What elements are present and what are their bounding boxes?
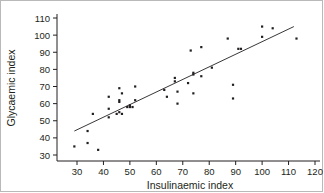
data-point <box>200 75 202 77</box>
data-point <box>86 142 88 144</box>
y-axis-tick-labels: 30405060708090100110 <box>34 13 50 161</box>
data-point <box>200 46 202 48</box>
x-tick-label: 60 <box>151 166 162 177</box>
x-tick-label: 70 <box>177 166 188 177</box>
x-axis-tick-labels: 30405060708090100110120 <box>72 166 323 177</box>
y-tick-label: 90 <box>39 47 50 58</box>
data-point <box>121 113 123 115</box>
x-tick-label: 120 <box>307 166 323 177</box>
data-point <box>232 97 234 99</box>
data-point <box>134 99 136 101</box>
regression-line <box>74 27 293 131</box>
data-point <box>166 96 168 98</box>
y-tick-label: 60 <box>39 98 50 109</box>
data-point <box>86 130 88 132</box>
data-points <box>73 25 297 150</box>
data-point <box>73 145 75 147</box>
x-tick-label: 100 <box>254 166 270 177</box>
data-point <box>174 77 176 79</box>
x-tick-label: 80 <box>204 166 215 177</box>
y-tick-label: 50 <box>39 115 50 126</box>
data-point <box>131 106 133 108</box>
axis-lines <box>57 14 320 161</box>
data-point <box>176 103 178 105</box>
data-point <box>108 108 110 110</box>
data-point <box>192 92 194 94</box>
scatter-plot: 30405060708090100110120 3040506070809010… <box>1 1 324 193</box>
data-point <box>121 92 123 94</box>
data-point <box>163 89 165 91</box>
data-point <box>187 82 189 84</box>
data-point <box>272 27 274 29</box>
data-point <box>129 104 131 106</box>
y-tick-label: 30 <box>39 150 50 161</box>
data-point <box>240 48 242 50</box>
x-axis-label: Insulinaemic index <box>147 179 234 191</box>
y-axis-label: Glycaemic index <box>5 49 17 127</box>
data-point <box>97 149 99 151</box>
x-tick-label: 90 <box>230 166 241 177</box>
data-point <box>126 106 128 108</box>
y-axis-ticks <box>53 18 57 155</box>
y-tick-label: 70 <box>39 81 50 92</box>
data-point <box>118 101 120 103</box>
data-point <box>261 36 263 38</box>
data-point <box>134 85 136 87</box>
x-axis-ticks <box>77 161 315 165</box>
x-tick-label: 40 <box>98 166 109 177</box>
data-point <box>232 84 234 86</box>
data-point <box>192 73 194 75</box>
data-point <box>92 113 94 115</box>
data-point <box>176 91 178 93</box>
data-point <box>237 48 239 50</box>
axes: 30405060708090100110120 3040506070809010… <box>34 13 323 178</box>
y-tick-label: 40 <box>39 132 50 143</box>
x-tick-label: 50 <box>125 166 136 177</box>
x-tick-label: 110 <box>281 166 296 177</box>
data-point <box>190 49 192 51</box>
data-point <box>211 67 213 69</box>
y-tick-label: 110 <box>35 13 50 24</box>
data-point <box>116 113 118 115</box>
data-point <box>108 116 110 118</box>
y-tick-label: 100 <box>34 30 50 41</box>
y-tick-label: 80 <box>39 64 50 75</box>
data-point <box>108 96 110 98</box>
data-point <box>174 80 176 82</box>
data-point <box>261 25 263 27</box>
data-point <box>118 87 120 89</box>
data-point <box>295 37 297 39</box>
data-point <box>118 111 120 113</box>
data-point <box>227 37 229 39</box>
x-tick-label: 30 <box>72 166 83 177</box>
